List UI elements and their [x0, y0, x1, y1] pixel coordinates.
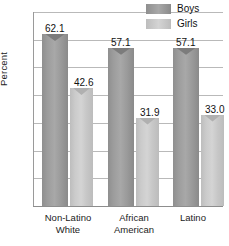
x-axis-line	[33, 206, 223, 207]
bar-cap	[173, 48, 199, 57]
legend-label-boys: Boys	[177, 3, 199, 15]
legend-label-girls: Girls	[177, 18, 198, 30]
bar-cap	[70, 88, 93, 97]
value-label-girls-latino: 33.0	[205, 105, 224, 115]
bar-girls-latino[interactable]	[201, 115, 224, 206]
legend-swatch-boys-icon	[146, 4, 171, 14]
legend-swatch-girls-icon	[146, 19, 171, 29]
bar-boys-african-american[interactable]	[108, 48, 134, 206]
legend: Boys Girls	[146, 3, 224, 31]
value-label-boys-non-latino-white: 62.1	[45, 24, 64, 34]
category-line-1: African	[96, 212, 172, 224]
bar-body	[108, 48, 134, 206]
y-axis-line	[33, 12, 34, 207]
value-label-girls-non-latino-white: 42.6	[74, 78, 93, 88]
bar-cap	[42, 34, 68, 43]
bar-cap	[108, 48, 134, 57]
bar-boys-latino[interactable]	[173, 48, 199, 206]
y-axis-title: Percent	[0, 52, 9, 86]
value-label-girls-african-american: 31.9	[140, 108, 159, 118]
bar-body	[136, 118, 159, 206]
bar-body	[42, 34, 68, 206]
value-label-boys-african-american: 57.1	[111, 38, 130, 48]
bar-cap	[136, 118, 159, 127]
bar-chart: Percent 70 60 50 40 30 20 10 0	[0, 0, 229, 246]
x-axis-category-latino: Latino	[162, 212, 224, 224]
bar-body	[70, 88, 93, 206]
bar-girls-african-american[interactable]	[136, 118, 159, 206]
bar-body	[173, 48, 199, 206]
value-label-boys-latino: 57.1	[176, 38, 195, 48]
plot-area	[41, 12, 223, 206]
bar-boys-non-latino-white[interactable]	[42, 34, 68, 206]
bar-girls-non-latino-white[interactable]	[70, 88, 93, 206]
category-line-2: American	[96, 224, 172, 236]
bar-body	[201, 115, 224, 206]
bar-cap	[201, 115, 224, 124]
x-axis-category-african-american: African American	[96, 212, 172, 236]
category-line-1: Latino	[162, 212, 224, 224]
